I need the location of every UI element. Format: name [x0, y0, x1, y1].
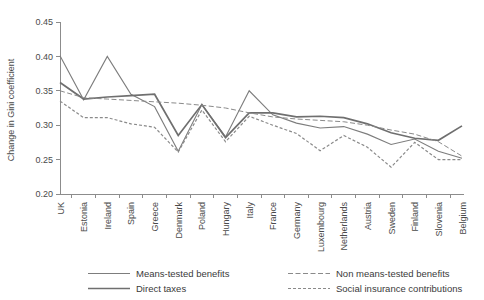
legend-label-2: Non means-tested benefits [336, 268, 450, 279]
series-line-2 [60, 91, 462, 156]
x-tick-label: Finland [410, 202, 420, 232]
x-tick-label: Ireland [103, 202, 113, 230]
x-tick-label: Poland [197, 202, 207, 230]
y-axis: 0.450.400.350.300.250.20 [35, 17, 60, 199]
x-tick-label: Germany [292, 202, 302, 240]
legend-label-0: Means-tested benefits [136, 268, 230, 279]
series-line-0 [60, 56, 462, 159]
x-tick-label: Hungary [221, 202, 231, 237]
series-line-1 [60, 83, 462, 141]
x-tick-label: Belgium [458, 202, 468, 235]
y-tick-label: 0.35 [35, 86, 53, 96]
y-tick-label: 0.25 [35, 155, 53, 165]
x-tick-label: UK [56, 202, 66, 215]
y-tick-label: 0.20 [35, 189, 53, 199]
y-tick-label: 0.45 [35, 17, 53, 27]
x-tick-label: Spain [126, 202, 136, 225]
series-lines [60, 56, 462, 167]
x-tick-label: Greece [150, 202, 160, 232]
y-axis-title: Change in Gini coefficient [6, 58, 16, 161]
legend-label-3: Social insurance contributions [336, 283, 462, 294]
chart-figure: 0.450.400.350.300.250.20 UKEstoniaIrelan… [0, 0, 484, 300]
x-tick-label: Italy [245, 202, 255, 219]
x-tick-label: Austria [363, 202, 373, 230]
y-tick-label: 0.40 [35, 52, 53, 62]
x-tick-label: Luxembourg [316, 202, 326, 252]
x-tick-label: Estonia [79, 202, 89, 232]
x-tick-label: Slovenia [434, 202, 444, 237]
legend-label-1: Direct taxes [136, 283, 186, 294]
chart-legend: Means-tested benefitsNon means-tested be… [88, 268, 462, 294]
y-tick-label: 0.30 [35, 120, 53, 130]
x-axis: UKEstoniaIrelandSpainGreeceDenmarkPoland… [56, 194, 468, 252]
x-tick-label: Netherlands [339, 202, 349, 251]
line-chart: 0.450.400.350.300.250.20 UKEstoniaIrelan… [0, 0, 484, 300]
x-tick-label: Sweden [387, 202, 397, 235]
series-line-3 [60, 101, 462, 167]
x-tick-label: France [268, 202, 278, 230]
x-tick-label: Denmark [174, 202, 184, 239]
